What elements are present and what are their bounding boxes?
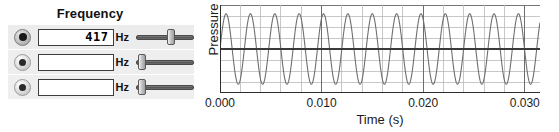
x-tick-label: 0.020 xyxy=(408,96,438,110)
radio-dot-icon xyxy=(19,33,27,41)
frequency-input-2[interactable] xyxy=(38,54,114,71)
x-tick-label: 0.000 xyxy=(205,96,235,110)
x-axis-label: Time (s) xyxy=(220,112,540,127)
unit-label-1: Hz xyxy=(116,32,129,43)
slider-track-1 xyxy=(136,35,194,40)
oscillator-row-1: 417 Hz xyxy=(8,25,194,49)
frequency-control-panel: Frequency 417 Hz Hz Hz xyxy=(0,0,194,100)
y-axis-label: Pressure xyxy=(206,0,221,69)
unit-label-2: Hz xyxy=(116,57,129,68)
frequency-slider-1[interactable] xyxy=(136,28,194,46)
frequency-input-3[interactable] xyxy=(38,79,114,96)
oscillator-row-3: Hz xyxy=(8,75,194,99)
frequency-slider-2[interactable] xyxy=(136,53,194,71)
slider-thumb-3[interactable] xyxy=(138,79,146,95)
panel-title: Frequency xyxy=(38,6,142,21)
plot-canvas xyxy=(220,5,540,93)
oscillator-1-radio-button[interactable] xyxy=(14,29,31,46)
x-tick-label: 0.010 xyxy=(307,96,337,110)
oscillator-2-radio-button[interactable] xyxy=(14,54,31,71)
unit-label-3: Hz xyxy=(116,82,129,93)
slider-thumb-2[interactable] xyxy=(138,54,146,70)
radio-dot-icon xyxy=(19,84,26,91)
slider-thumb-1[interactable] xyxy=(167,29,175,45)
oscillator-3-radio-button[interactable] xyxy=(14,79,31,96)
frequency-slider-3[interactable] xyxy=(136,78,194,96)
frequency-input-1[interactable]: 417 xyxy=(38,29,114,46)
oscillator-row-2: Hz xyxy=(8,50,194,74)
pressure-waveform-chart: Pressure 0.0000.0100.0200.030 Time (s) xyxy=(195,0,559,132)
x-tick-label: 0.030 xyxy=(510,96,540,110)
radio-dot-icon xyxy=(19,59,26,66)
